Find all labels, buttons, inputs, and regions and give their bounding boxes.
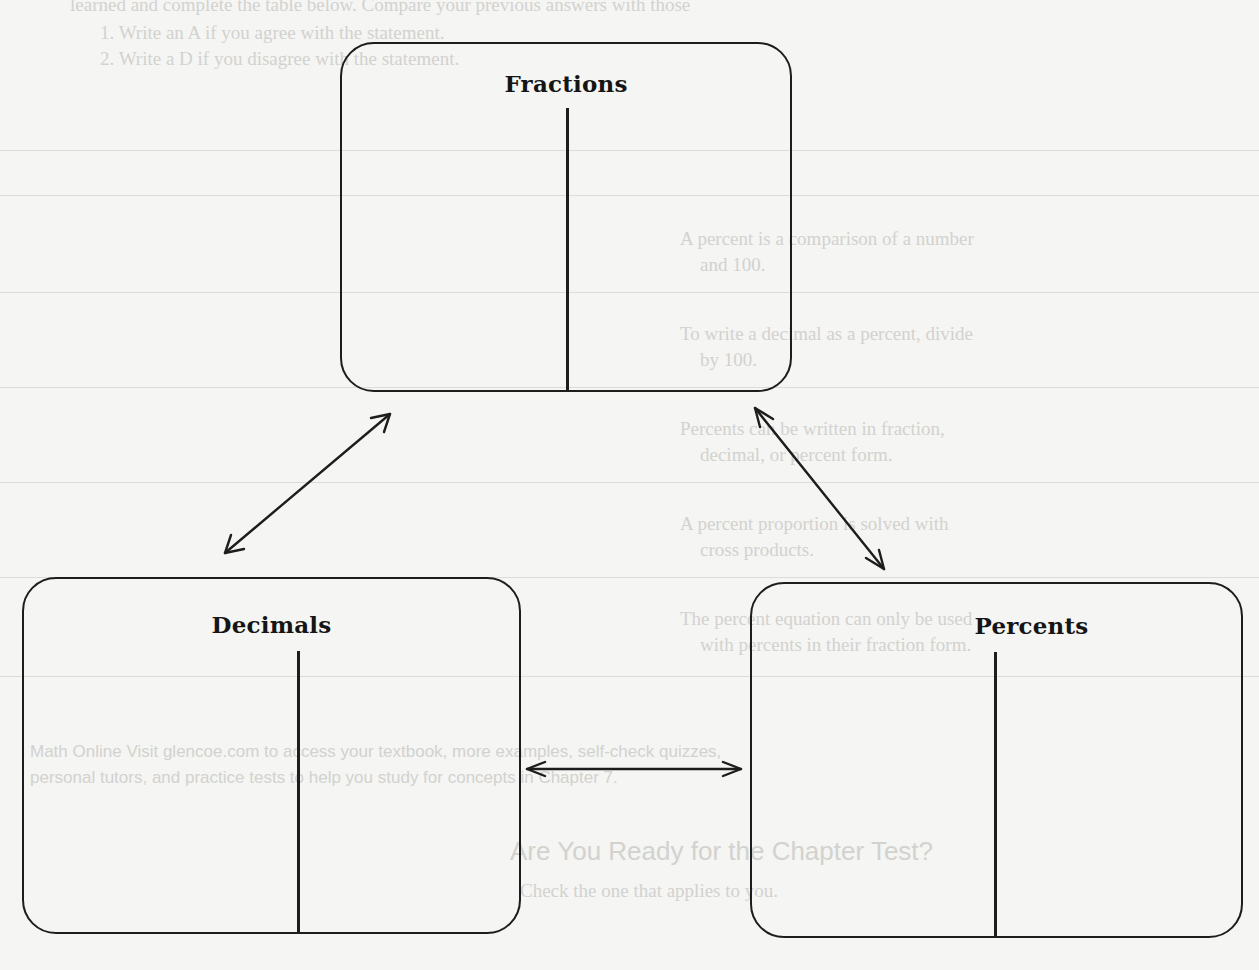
double-arrow-icon-decimals-percents [527,762,741,776]
double-arrow-icon-fractions-percents [755,408,884,569]
foldable-page: learned and complete the table below. Co… [0,0,1259,970]
connector-arrows [0,0,1259,970]
double-arrow-icon-fractions-decimals [225,414,390,553]
